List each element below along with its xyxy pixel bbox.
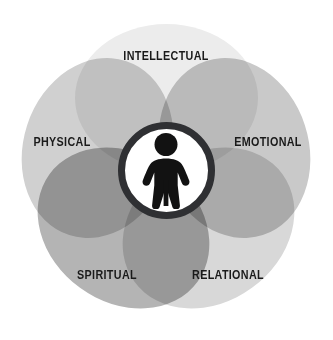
label-spiritual: SPIRITUAL [21, 269, 193, 282]
label-intellectual: INTELLECTUAL [80, 50, 252, 63]
label-physical: PHYSICAL [0, 136, 148, 149]
label-emotional: EMOTIONAL [182, 136, 333, 149]
wellness-petal-diagram: INTELLECTUAL EMOTIONAL RELATIONAL SPIRIT… [0, 0, 333, 340]
